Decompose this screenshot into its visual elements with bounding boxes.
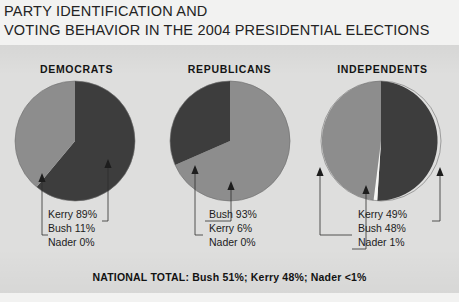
national-total-caption: NATIONAL TOTAL: Bush 51%; Kerry 48%; Nad… xyxy=(0,271,459,283)
legend-row-kerry: Kerry 49% xyxy=(334,207,454,221)
title-line-2: VOTING BEHAVIOR IN THE 2004 PRESIDENTIAL… xyxy=(4,21,454,40)
chart-group-independents: INDEPENDENTS xyxy=(306,45,459,293)
chart-group-republicans: REPUBLICANS xyxy=(153,45,306,293)
pie-chart-independents xyxy=(315,78,451,204)
chart-panel: DEMOCRATS xyxy=(0,45,459,293)
pie-independents xyxy=(306,78,459,208)
pie-slice-bush xyxy=(321,81,380,200)
legend-row-nader: Nader 0% xyxy=(30,235,140,249)
legend-row-nader: Nader 1% xyxy=(334,235,454,249)
legend-republicans: Bush 93% Kerry 6% Nader 0% xyxy=(189,207,301,249)
legend-row-nader: Nader 0% xyxy=(189,235,301,249)
title-line-1: PARTY IDENTIFICATION AND xyxy=(4,2,454,21)
group-heading-democrats: DEMOCRATS xyxy=(0,63,153,75)
group-heading-independents: INDEPENDENTS xyxy=(306,63,459,75)
legend-independents: Kerry 49% Bush 48% Nader 1% xyxy=(334,207,454,249)
legend-row-bush: Bush 11% xyxy=(30,221,140,235)
bottom-strip xyxy=(0,293,459,302)
legend-row-kerry: Kerry 6% xyxy=(189,221,301,235)
pie-chart-republicans xyxy=(162,78,298,204)
group-heading-republicans: REPUBLICANS xyxy=(153,63,306,75)
legend-row-kerry: Kerry 89% xyxy=(30,207,140,221)
pie-chart-democrats xyxy=(9,78,145,204)
legend-row-bush: Bush 48% xyxy=(334,221,454,235)
figure-root: PARTY IDENTIFICATION AND VOTING BEHAVIOR… xyxy=(0,0,459,302)
page-title: PARTY IDENTIFICATION AND VOTING BEHAVIOR… xyxy=(4,2,454,40)
chart-group-democrats: DEMOCRATS xyxy=(0,45,153,293)
legend-democrats: Kerry 89% Bush 11% Nader 0% xyxy=(30,207,140,249)
pie-slice-kerry xyxy=(377,81,437,201)
legend-row-bush: Bush 93% xyxy=(189,207,301,221)
pie-democrats xyxy=(0,78,153,208)
pie-republicans xyxy=(153,78,306,208)
